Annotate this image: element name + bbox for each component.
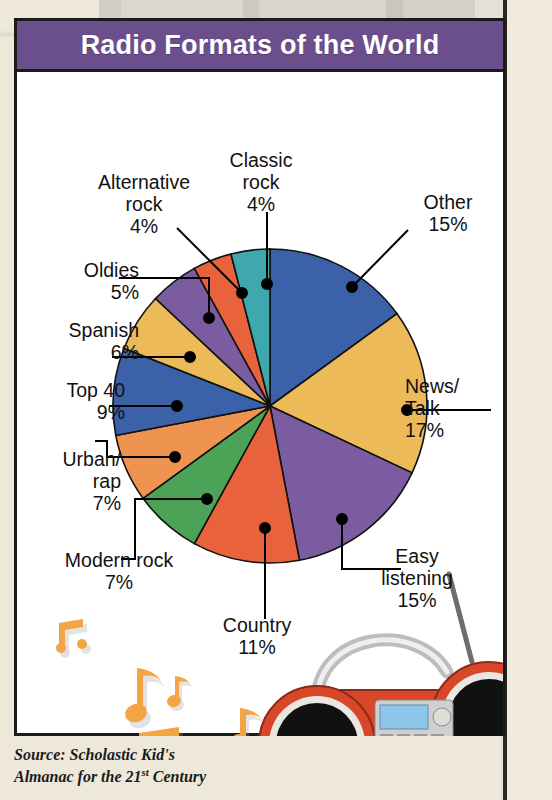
leader-dot bbox=[347, 282, 357, 292]
leader-dot bbox=[237, 288, 247, 298]
source-line-2: Almanac for the 21st Century bbox=[14, 765, 344, 787]
leader-dot bbox=[202, 494, 212, 504]
slice-label-country: Country 11% bbox=[195, 615, 319, 659]
slice-label-modern-rock: Modern rock 7% bbox=[29, 550, 209, 594]
slice-label-urban-rap: Urban/ rap 7% bbox=[17, 449, 121, 514]
pie-chart-area: Classic rock 4% Alternative rock 4% Oldi… bbox=[17, 72, 503, 736]
source-line-2-pre: Almanac for the 21 bbox=[14, 768, 142, 785]
infographic-page: Radio Formats of the World bbox=[0, 0, 552, 800]
source-line-2-post: Century bbox=[149, 768, 206, 785]
leader-dot bbox=[170, 452, 180, 462]
chart-card: Radio Formats of the World bbox=[14, 18, 506, 736]
source-line-1: Source: Scholastic Kid's bbox=[14, 744, 344, 765]
source-ordinal-suffix: st bbox=[142, 766, 149, 778]
leader-line bbox=[352, 230, 408, 287]
slice-label-oldies: Oldies 5% bbox=[27, 260, 139, 304]
leader-dot bbox=[172, 401, 182, 411]
slice-label-top-40: Top 40 9% bbox=[19, 380, 125, 424]
slice-label-spanish: Spanish 6% bbox=[21, 320, 139, 364]
slice-label-other: Other 15% bbox=[393, 192, 503, 236]
chart-title-banner: Radio Formats of the World bbox=[17, 21, 503, 72]
chart-title: Radio Formats of the World bbox=[81, 30, 440, 61]
slice-label-easy-listening: Easy listening 15% bbox=[355, 546, 479, 611]
slice-label-alternative-rock: Alternative rock 4% bbox=[71, 172, 217, 237]
leader-dot bbox=[185, 352, 195, 362]
slice-label-classic-rock: Classic rock 4% bbox=[213, 150, 309, 215]
page-edge bbox=[500, 0, 552, 800]
leader-dot bbox=[262, 279, 272, 289]
slice-label-news-talk: News/ Talk 17% bbox=[405, 376, 505, 441]
leader-dot bbox=[260, 523, 270, 533]
leader-dot bbox=[204, 313, 214, 323]
source-caption: Source: Scholastic Kid's Almanac for the… bbox=[14, 744, 344, 788]
leader-dot bbox=[337, 514, 347, 524]
